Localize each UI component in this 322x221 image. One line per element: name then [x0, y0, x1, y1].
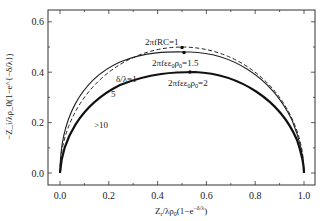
y-ticks [48, 22, 315, 173]
curve-delta-1 [60, 52, 304, 173]
x-axis-label: Zr/λρ0(1−e−δ/λ) [155, 205, 207, 217]
y-axis-label: −Z_i/λρ_0(1−e^{−δ/λ}) [4, 53, 14, 140]
y-tick-labels: 0.0 0.2 0.4 0.6 [32, 16, 45, 179]
y-tick-label: 0.4 [32, 67, 45, 78]
y-tick-label: 0.6 [32, 16, 45, 27]
marker-rc [180, 46, 184, 50]
nyquist-chart: 0.0 0.2 0.4 0.6 0.8 1.0 0.0 0.2 0.4 0.6 … [0, 0, 322, 221]
annotation-delta-1: δ/λ=1 [116, 74, 137, 84]
x-tick-labels: 0.0 0.2 0.4 0.6 0.8 1.0 [54, 190, 311, 201]
y-tick-label: 0.2 [32, 117, 45, 128]
plot-frame [48, 10, 315, 185]
annotation-delta-gt10: >10 [94, 120, 109, 130]
annotation-1-5: 2πfεε0ρ0=1.5 [152, 58, 199, 69]
y-tick-label: 0.0 [32, 168, 45, 179]
x-tick-label: 0.6 [200, 190, 213, 201]
annotation-delta-5: 5 [111, 89, 116, 99]
marker-1-5 [182, 51, 186, 55]
annotation-rc: 2πfRC=1 [145, 37, 179, 47]
x-tick-label: 0.0 [54, 190, 67, 201]
x-tick-label: 1.0 [298, 190, 311, 201]
x-tick-label: 0.2 [103, 190, 116, 201]
x-tick-label: 0.8 [249, 190, 262, 201]
x-tick-label: 0.4 [151, 190, 164, 201]
x-ticks [60, 10, 304, 185]
annotation-2: 2πfεε0ρ0=2 [168, 78, 208, 89]
marker-2 [188, 70, 192, 74]
